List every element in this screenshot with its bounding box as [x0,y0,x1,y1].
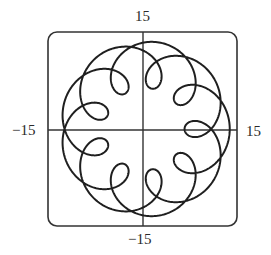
plot-area [0,0,271,255]
x-min-tick-label: −15 [12,123,35,138]
x-max-tick-label: 15 [246,124,261,139]
y-max-tick-label: 15 [135,9,150,24]
y-min-tick-label: −15 [128,232,151,247]
parametric-curve [63,42,230,216]
